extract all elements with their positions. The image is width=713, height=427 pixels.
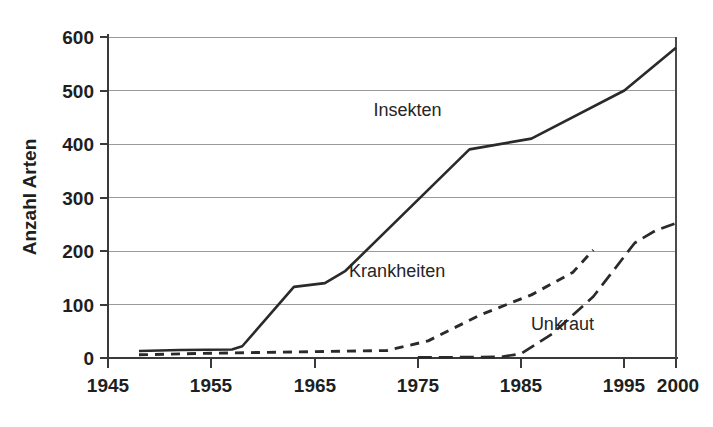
x-tick-label-1945: 1945 bbox=[87, 375, 130, 396]
y-tick-label-200: 200 bbox=[62, 241, 94, 262]
series-label-insekten: Insekten bbox=[373, 100, 441, 120]
y-tick-label-400: 400 bbox=[62, 134, 94, 155]
series-label-krankheiten: Krankheiten bbox=[349, 261, 445, 281]
y-tick-labels: 600 500 400 300 200 100 0 bbox=[62, 27, 94, 369]
x-tick-label-1985: 1985 bbox=[500, 375, 543, 396]
y-tick-marks bbox=[100, 37, 108, 358]
line-chart-figure: 600 500 400 300 200 100 0 1945 1955 1965… bbox=[0, 0, 713, 427]
data-series-group bbox=[139, 48, 676, 358]
series-label-unkraut: Unkraut bbox=[531, 314, 594, 334]
series-annotations: Insekten Krankheiten Unkraut bbox=[349, 100, 594, 334]
series-line-unkraut bbox=[418, 223, 676, 357]
y-axis-title: Anzahl Arten bbox=[19, 139, 40, 255]
x-tick-label-1965: 1965 bbox=[294, 375, 337, 396]
y-tick-label-500: 500 bbox=[62, 81, 94, 102]
y-tick-label-100: 100 bbox=[62, 295, 94, 316]
x-tick-label-1995: 1995 bbox=[603, 375, 646, 396]
x-tick-marks bbox=[108, 358, 676, 368]
y-tick-label-600: 600 bbox=[62, 27, 94, 48]
x-tick-label-2000: 2000 bbox=[657, 375, 699, 396]
series-line-insekten bbox=[139, 48, 676, 351]
y-tick-label-300: 300 bbox=[62, 188, 94, 209]
y-tick-label-0: 0 bbox=[83, 348, 94, 369]
x-tick-labels: 1945 1955 1965 1975 1985 1995 2000 bbox=[87, 375, 699, 396]
chart-container: 600 500 400 300 200 100 0 1945 1955 1965… bbox=[0, 0, 713, 427]
x-tick-label-1975: 1975 bbox=[397, 375, 440, 396]
x-tick-label-1955: 1955 bbox=[190, 375, 233, 396]
